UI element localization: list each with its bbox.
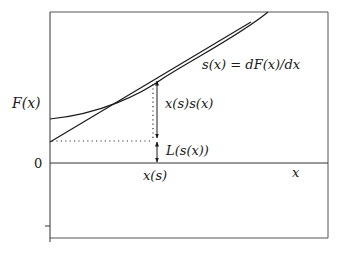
upper-segment-label: x(s)s(x): [165, 96, 213, 111]
y-axis-label: F(x): [11, 95, 41, 111]
legendre-transform-diagram: F(x) 0 x x(s) s(x) = dF(x)/dx x(s)s(x) L…: [0, 0, 346, 254]
x-point-label: x(s): [143, 168, 167, 183]
lower-segment-label: L(s(x)): [165, 143, 209, 158]
x-axis-label: x: [292, 165, 300, 180]
zero-label: 0: [34, 156, 42, 171]
slope-definition-label: s(x) = dF(x)/dx: [202, 57, 301, 72]
tangent-line: [50, 22, 251, 142]
